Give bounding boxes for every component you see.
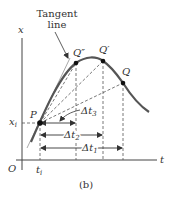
ti-label: ti xyxy=(36,164,42,177)
point-q2 xyxy=(74,61,79,66)
xi-label: xi xyxy=(9,116,17,129)
figure-caption: (b) xyxy=(79,179,93,190)
point-q xyxy=(121,81,126,86)
point-q1 xyxy=(101,59,106,64)
position-time-graph: Tangent line x t O ti xi P Q″ Q′ Q Δt3 Δ… xyxy=(0,0,173,203)
tangent-label-line2: line xyxy=(48,19,67,30)
point-q-label: Q xyxy=(122,66,130,77)
point-p-label: P xyxy=(29,109,37,120)
point-q2-label: Q″ xyxy=(73,47,85,58)
origin-label: O xyxy=(8,163,16,174)
point-q1-label: Q′ xyxy=(99,44,110,55)
y-axis-label: x xyxy=(18,24,24,35)
dt2-label: Δt2 xyxy=(63,129,80,142)
tangent-pointer-arrow xyxy=(55,32,68,58)
point-p xyxy=(37,120,43,126)
dt3-label: Δt3 xyxy=(80,105,97,118)
x-axis-label: t xyxy=(160,154,165,165)
dt1-label: Δt1 xyxy=(81,142,98,155)
position-curve xyxy=(31,57,149,142)
tangent-label-line1: Tangent xyxy=(36,8,77,19)
secant-p-q xyxy=(40,83,123,123)
